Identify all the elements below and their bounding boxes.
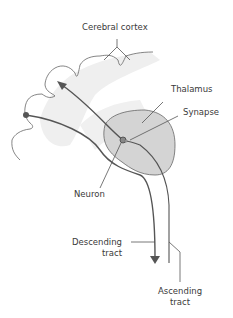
descending-tract-label: Descending tract [70, 237, 122, 259]
synapse-marker [125, 140, 127, 142]
synapse-label: Synapse [183, 107, 219, 118]
thalamus-label: Thalamus [171, 84, 212, 95]
neuron-label: Neuron [74, 189, 105, 200]
ascending-tract-label: Ascending tract [150, 286, 210, 308]
descending-arrowhead [150, 256, 160, 264]
thalamus-shape [104, 110, 175, 175]
neuron-body [120, 137, 126, 143]
neural-pathway-diagram [0, 0, 233, 318]
cerebral-cortex-label: Cerebral cortex [82, 22, 148, 33]
ascending-leader [169, 242, 180, 282]
